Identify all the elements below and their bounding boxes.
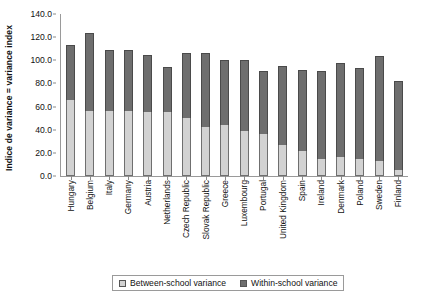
bar-segment-within-school[interactable]: [259, 71, 268, 134]
bar-slot: [177, 14, 196, 176]
bar-segment-within-school[interactable]: [163, 67, 172, 112]
x-axis-category-label: Spain: [297, 180, 307, 201]
bar-slot: [273, 14, 292, 176]
bar-segment-between-school[interactable]: [336, 157, 345, 176]
bar-segment-within-school[interactable]: [298, 70, 307, 151]
x-axis-category-label: Netherlands: [162, 180, 172, 225]
y-axis-tick-mark: [53, 129, 56, 130]
bar-segment-within-school[interactable]: [143, 55, 152, 112]
x-axis-category-label: Sweden: [374, 180, 384, 210]
bar-segment-within-school[interactable]: [182, 53, 191, 117]
x-axis-category-label: Finland: [393, 180, 403, 207]
bar-slot: [235, 14, 254, 176]
y-axis-title-text: Indice de variance = variance index: [4, 25, 14, 171]
bar-slot: [196, 14, 215, 176]
bar-segment-between-school[interactable]: [298, 151, 307, 176]
stacked-bar[interactable]: [182, 53, 191, 176]
bar-segment-between-school[interactable]: [85, 111, 94, 176]
stacked-bar[interactable]: [143, 55, 152, 176]
stacked-bar[interactable]: [259, 71, 268, 176]
x-axis-label-slot: Spain: [292, 180, 311, 258]
bar-segment-between-school[interactable]: [355, 159, 364, 176]
y-axis-title: Indice de variance = variance index: [0, 0, 18, 196]
x-axis-label-slot: Italy: [100, 180, 119, 258]
x-axis-category-label: Greece: [220, 180, 230, 207]
x-axis-label-slot: United Kingdom: [273, 180, 292, 258]
bar-segment-within-school[interactable]: [85, 33, 94, 111]
bar-segment-within-school[interactable]: [394, 81, 403, 170]
bar-segment-within-school[interactable]: [124, 50, 133, 111]
stacked-bar[interactable]: [355, 68, 364, 176]
bar-segment-between-school[interactable]: [220, 125, 229, 176]
stacked-bar[interactable]: [375, 56, 384, 176]
y-axis-tick-label: 80.0: [35, 78, 52, 88]
x-axis-line: [60, 176, 408, 177]
x-axis-category-label: Portugal: [258, 180, 268, 211]
light-gray-swatch: [119, 280, 126, 287]
x-axis-category-label: Austria: [143, 180, 153, 206]
bar-segment-between-school[interactable]: [375, 161, 384, 176]
stacked-bar[interactable]: [201, 53, 210, 176]
x-axis-label-slot: Luxembourg: [235, 180, 254, 258]
stacked-bar[interactable]: [317, 71, 326, 176]
bar-segment-within-school[interactable]: [105, 50, 114, 111]
dark-gray-swatch: [240, 280, 247, 287]
x-axis-category-label: United Kingdom: [278, 180, 288, 239]
bar-slot: [100, 14, 119, 176]
x-axis-label-slot: Slovak Republic: [196, 180, 215, 258]
stacked-bar[interactable]: [298, 70, 307, 176]
stacked-bar[interactable]: [124, 50, 133, 176]
stacked-bar[interactable]: [220, 60, 229, 176]
bar-slot: [80, 14, 99, 176]
bar-segment-between-school[interactable]: [124, 111, 133, 176]
x-axis-category-label: Ireland: [316, 180, 326, 205]
x-axis-category-label: Luxembourg: [239, 180, 249, 226]
stacked-bar[interactable]: [85, 33, 94, 176]
x-axis-category-label: Italy: [104, 180, 114, 195]
bar-slot: [119, 14, 138, 176]
y-axis-tick-mark: [53, 14, 56, 15]
bar-segment-within-school[interactable]: [317, 71, 326, 159]
bar-segment-between-school[interactable]: [163, 112, 172, 176]
stacked-bar[interactable]: [394, 81, 403, 176]
legend-item[interactable]: Between-school variance: [119, 278, 226, 288]
bar-segment-within-school[interactable]: [220, 60, 229, 125]
x-axis-label-slot: Belgium: [80, 180, 99, 258]
bar-segment-between-school[interactable]: [201, 127, 210, 176]
x-axis-category-label: Poland: [355, 180, 365, 206]
bar-slot: [157, 14, 176, 176]
stacked-bar[interactable]: [105, 50, 114, 176]
legend-item-label: Between-school variance: [130, 278, 226, 288]
bar-segment-within-school[interactable]: [240, 60, 249, 131]
bar-segment-between-school[interactable]: [278, 145, 287, 176]
bar-segment-between-school[interactable]: [182, 118, 191, 176]
bar-segment-between-school[interactable]: [66, 100, 75, 176]
stacked-bar[interactable]: [163, 67, 172, 176]
y-axis-tick-label: 0.0: [40, 171, 52, 181]
bar-segment-within-school[interactable]: [375, 56, 384, 161]
bar-slot: [389, 14, 408, 176]
bar-segment-within-school[interactable]: [336, 63, 345, 157]
x-axis-category-label: Belgium: [85, 180, 95, 210]
chart-legend: Between-school varianceWithin-school var…: [112, 275, 344, 291]
legend-item[interactable]: Within-school variance: [240, 278, 337, 288]
stacked-bar[interactable]: [336, 63, 345, 176]
stacked-bar[interactable]: [278, 66, 287, 176]
bar-segment-between-school[interactable]: [259, 134, 268, 176]
bar-segment-between-school[interactable]: [105, 111, 114, 176]
x-axis-label-slot: Denmark: [331, 180, 350, 258]
y-axis-tick-label: 120.0: [30, 32, 52, 42]
stacked-bar[interactable]: [240, 60, 249, 176]
bar-segment-within-school[interactable]: [355, 68, 364, 159]
bar-segment-between-school[interactable]: [240, 131, 249, 176]
bar-segment-between-school[interactable]: [317, 159, 326, 176]
x-axis-label-slot: Austria: [138, 180, 157, 258]
bar-segment-between-school[interactable]: [143, 112, 152, 176]
x-axis-category-label: Hungary: [66, 180, 76, 211]
bar-slot: [138, 14, 157, 176]
bar-segment-within-school[interactable]: [278, 66, 287, 145]
stacked-bar[interactable]: [66, 45, 75, 176]
bar-slot: [312, 14, 331, 176]
bar-segment-within-school[interactable]: [201, 53, 210, 128]
bar-segment-within-school[interactable]: [66, 45, 75, 99]
